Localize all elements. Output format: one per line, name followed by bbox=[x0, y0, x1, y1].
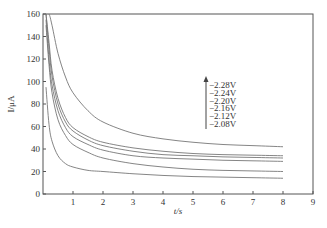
x-tick-label: 4 bbox=[161, 197, 166, 207]
series-line--2.28V bbox=[46, 13, 283, 147]
x-axis: 123456789 bbox=[71, 191, 316, 207]
x-tick-label: 5 bbox=[191, 197, 196, 207]
x-tick-label: 8 bbox=[281, 197, 286, 207]
series-line--2.12V bbox=[46, 25, 283, 171]
series-line--2.24V bbox=[46, 14, 283, 156]
plot-border bbox=[43, 14, 313, 194]
series-lines bbox=[46, 13, 283, 178]
legend-item: −2.08V bbox=[209, 119, 237, 129]
arrow-up-icon bbox=[204, 76, 209, 82]
y-axis-label: I/μA bbox=[6, 95, 16, 112]
series-line--2.08V bbox=[46, 87, 283, 178]
y-tick-label: 100 bbox=[27, 77, 41, 87]
y-tick-label: 40 bbox=[31, 144, 41, 154]
x-tick-label: 9 bbox=[311, 197, 316, 207]
series-line--2.20V bbox=[46, 14, 283, 158]
chart: 020406080100120140160 123456789 −2.28V−2… bbox=[0, 0, 327, 228]
x-tick-label: 2 bbox=[101, 197, 106, 207]
legend: −2.28V−2.24V−2.20V−2.16V−2.12V−2.08V bbox=[204, 76, 237, 129]
plot-frame bbox=[43, 14, 313, 194]
y-tick-label: 80 bbox=[31, 99, 41, 109]
x-axis-label: t/s bbox=[174, 206, 183, 216]
series-line--2.16V bbox=[46, 20, 283, 162]
y-tick-label: 140 bbox=[27, 32, 41, 42]
x-tick-label: 6 bbox=[221, 197, 226, 207]
y-tick-label: 0 bbox=[36, 189, 41, 199]
x-tick-label: 7 bbox=[251, 197, 256, 207]
x-tick-label: 1 bbox=[71, 197, 76, 207]
y-tick-label: 120 bbox=[27, 54, 41, 64]
y-tick-label: 160 bbox=[27, 9, 41, 19]
x-tick-label: 3 bbox=[131, 197, 136, 207]
y-tick-label: 60 bbox=[31, 122, 41, 132]
y-tick-label: 20 bbox=[31, 167, 41, 177]
